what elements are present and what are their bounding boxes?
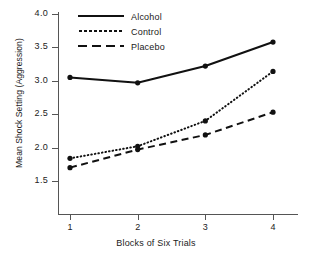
data-point <box>135 147 140 152</box>
data-point <box>270 69 275 74</box>
data-point <box>270 110 275 115</box>
line-chart: 4.03.53.02.52.01.5 1234 Blocks of Six Tr… <box>0 0 312 259</box>
data-point <box>270 39 275 44</box>
data-point <box>203 132 208 137</box>
dashed-line-icon <box>78 41 124 52</box>
legend-label: Alcohol <box>131 12 162 22</box>
data-point <box>135 80 140 85</box>
legend: Alcohol Control Placebo <box>78 9 165 54</box>
data-point <box>67 75 72 80</box>
series-line-placebo <box>70 112 273 167</box>
series-line-control <box>70 71 273 158</box>
legend-label: Placebo <box>131 42 165 52</box>
data-point <box>67 165 72 170</box>
legend-item-placebo: Placebo <box>78 39 165 54</box>
data-point <box>67 156 72 161</box>
data-point <box>203 118 208 123</box>
legend-item-alcohol: Alcohol <box>78 9 165 24</box>
data-point <box>203 64 208 69</box>
solid-line-icon <box>78 11 124 22</box>
dotted-line-icon <box>78 26 124 37</box>
legend-label: Control <box>131 27 161 37</box>
legend-item-control: Control <box>78 24 165 39</box>
